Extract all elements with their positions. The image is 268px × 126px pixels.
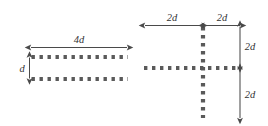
cross-right-span-label: 2d (217, 12, 228, 23)
left-diagram-group: 4d d (19, 34, 128, 79)
diagram-svg: 4d d 2d 2d 2d 2d (0, 0, 268, 126)
cross-left-span-label: 2d (167, 12, 178, 23)
left-length-label: 4d (74, 34, 85, 45)
left-separation-label: d (19, 63, 25, 74)
figure-canvas: 4d d 2d 2d 2d 2d (0, 0, 268, 126)
right-diagram-group: 2d 2d 2d 2d (144, 12, 256, 118)
cross-lower-span-label: 2d (245, 89, 256, 100)
cross-upper-span-label: 2d (245, 41, 256, 52)
